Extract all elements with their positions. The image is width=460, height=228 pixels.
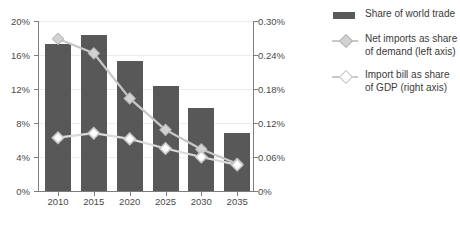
x-axis-label-2035: 2035 — [215, 196, 259, 207]
legend-label-share-of-world-trade: Share of world trade — [365, 8, 455, 21]
right-axis-label-012: 0.12% — [258, 118, 298, 129]
legend-label-import-bill: Import bill as share of GDP (right axis) — [365, 69, 458, 94]
left-axis-label-0: 0% — [0, 186, 30, 197]
right-axis-line — [253, 21, 254, 192]
left-axis-label-8: 8% — [0, 118, 30, 129]
legend-item-import-bill[interactable]: Import bill as share of GDP (right axis) — [332, 69, 458, 94]
plot-area — [38, 21, 253, 191]
chart-container: 20% 16% 12% 8% 4% 0% 0.30% 0.24% 0.18% 0… — [0, 0, 460, 228]
right-axis-label-018: 0.18% — [258, 84, 298, 95]
bar-2015 — [81, 35, 107, 191]
filled-diamond-marker-icon — [332, 34, 358, 47]
left-axis-tick — [34, 123, 38, 124]
open-diamond-marker-icon — [332, 70, 358, 83]
left-axis-tick — [34, 55, 38, 56]
left-axis-tick — [34, 191, 38, 192]
bar-2035 — [224, 133, 250, 191]
bottom-axis-line — [38, 191, 254, 192]
right-axis-label-024: 0.24% — [258, 50, 298, 61]
bar-2030 — [188, 108, 214, 191]
left-axis-label-4: 4% — [0, 152, 30, 163]
legend-item-share-of-world-trade[interactable]: Share of world trade — [332, 8, 458, 22]
chart-legend: Share of world trade Net imports as shar… — [332, 8, 458, 105]
legend-label-net-imports: Net imports as share of demand (left axi… — [365, 33, 458, 58]
right-axis-label-030: 0.30% — [258, 16, 298, 27]
right-axis-label-0: 0% — [258, 186, 298, 197]
bar-2010 — [45, 44, 71, 191]
legend-item-net-imports[interactable]: Net imports as share of demand (left axi… — [332, 33, 458, 58]
left-axis-tick — [34, 21, 38, 22]
left-axis-label-20: 20% — [0, 16, 30, 27]
gridline — [38, 21, 253, 22]
bar-2020 — [117, 61, 143, 191]
bar-2025 — [153, 86, 179, 191]
right-axis-label-006: 0.06% — [258, 152, 298, 163]
left-axis-line — [38, 21, 39, 192]
bar-swatch-icon — [332, 9, 358, 22]
left-axis-label-12: 12% — [0, 84, 30, 95]
left-axis-tick — [34, 89, 38, 90]
left-axis-label-16: 16% — [0, 50, 30, 61]
left-axis-tick — [34, 157, 38, 158]
